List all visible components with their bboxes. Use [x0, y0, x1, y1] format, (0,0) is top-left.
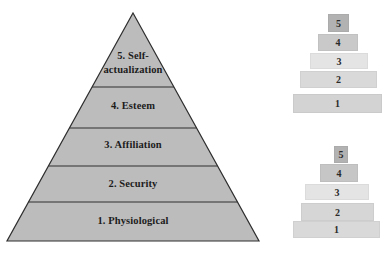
mini-bottom-block-5: 5: [334, 146, 348, 163]
figure-canvas: 5. Self-actualization 4. Esteem 3. Affil…: [0, 0, 385, 253]
mini-top-block-3: 3: [310, 53, 368, 69]
mini-top-block-2: 2: [300, 71, 377, 88]
pyramid-level-esteem-label: 4. Esteem: [63, 99, 203, 113]
pyramid-level-security-label: 2. Security: [63, 177, 203, 191]
mini-top-block-5: 5: [328, 14, 349, 32]
mini-top-block-1: 1: [293, 94, 382, 113]
pyramid-shape: [7, 13, 259, 241]
pyramid-level-affiliation-label: 3. Affiliation: [63, 138, 203, 152]
pyramid-level-physiological-label: 1. Physiological: [63, 214, 203, 228]
pyramid-level-self-actualization-label: 5. Self-actualization: [91, 49, 175, 77]
mini-bottom-block-2: 2: [301, 203, 374, 221]
mini-bottom-block-1: 1: [293, 221, 380, 238]
mini-top-block-4: 4: [318, 34, 358, 51]
mini-bottom-block-3: 3: [305, 184, 369, 200]
mini-bottom-block-4: 4: [320, 164, 358, 182]
